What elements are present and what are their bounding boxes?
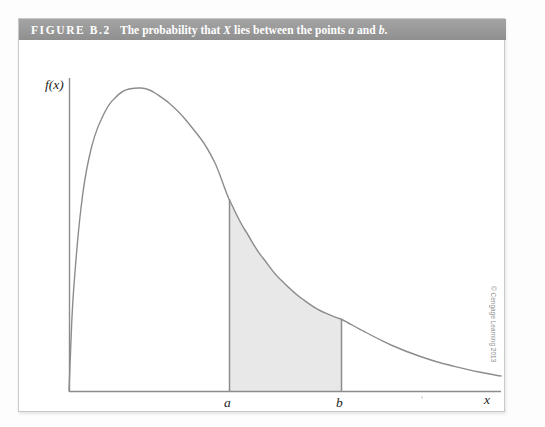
caption-segment-pre: The probability that (120, 24, 223, 36)
x-tick-label-b: b (336, 395, 343, 411)
caption-variable-x: X (223, 24, 231, 36)
figure-number-label: FIGURE B.2 (31, 24, 111, 36)
plot-area: f(x) x a b (19, 40, 506, 411)
caption-segment-end: . (384, 24, 387, 36)
shaded-area-a-to-b (229, 199, 341, 391)
copyright-credit: © Cengage Learning 2013 (490, 286, 497, 386)
figure-container: FIGURE B.2 The probability that X lies b… (18, 18, 505, 412)
y-axis-label: f(x) (45, 77, 64, 93)
caption-segment-and: and (354, 24, 379, 36)
figure-caption-bar: FIGURE B.2 The probability that X lies b… (19, 19, 506, 40)
figure-caption-text: The probability that X lies between the … (120, 24, 387, 36)
caption-segment-mid: lies between the points (231, 24, 348, 36)
x-tick-label-a: a (224, 395, 231, 411)
x-axis-label: x (484, 392, 490, 408)
density-curve-chart (19, 40, 506, 411)
